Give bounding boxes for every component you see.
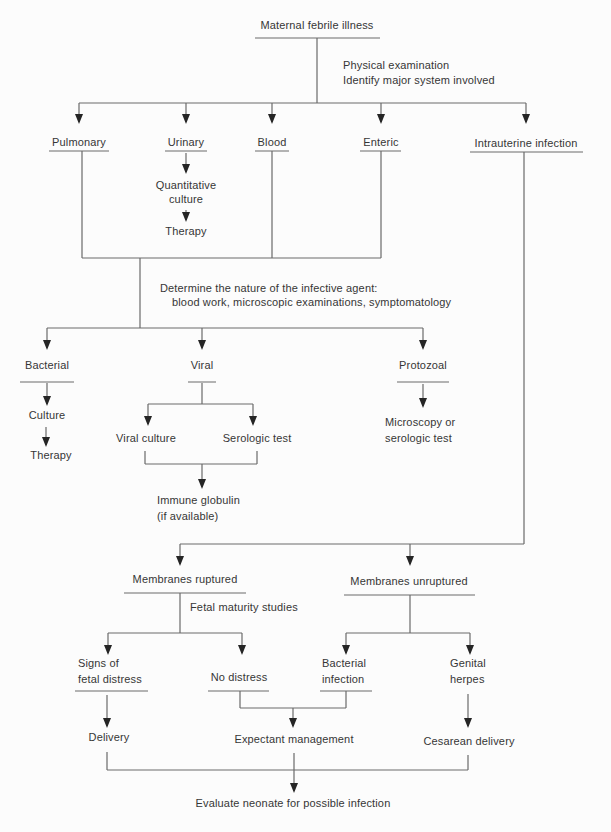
node-immune-globulin: Immune globulin (if available) (157, 492, 240, 524)
node-protozoal: Protozoal (399, 359, 447, 372)
flow-arrows (46, 103, 526, 791)
node-signs-of-fetal-distress: Signs of fetal distress (78, 655, 142, 687)
node-delivery: Delivery (89, 731, 130, 744)
node-microscopy-serologic: Microscopy or serologic test (385, 414, 455, 446)
node-viral-culture: Viral culture (116, 432, 176, 445)
node-quantitative-culture: Quantitative culture (156, 178, 217, 206)
node-viral: Viral (191, 359, 214, 372)
node-determine-agent-line2: blood work, microscopic examinations, sy… (172, 296, 451, 309)
annotation-physical-examination: Physical examination Identify major syst… (343, 58, 495, 88)
node-maternal-febrile-illness: Maternal febrile illness (260, 19, 373, 32)
flowchart-maternal-febrile-illness: Maternal febrile illness Physical examin… (0, 0, 611, 832)
node-intrauterine-infection: Intrauterine infection (475, 137, 578, 150)
node-evaluate-neonate: Evaluate neonate for possible infection (196, 797, 391, 810)
node-genital-herpes: Genital herpes (450, 655, 486, 687)
node-determine-agent-line1: Determine the nature of the infective ag… (160, 282, 378, 295)
node-enteric: Enteric (363, 136, 398, 149)
node-urinary: Urinary (168, 136, 205, 149)
node-fetal-maturity-studies: Fetal maturity studies (190, 601, 298, 614)
node-cesarean-delivery: Cesarean delivery (423, 735, 514, 748)
node-expectant-management: Expectant management (234, 733, 353, 746)
node-urinary-therapy: Therapy (165, 225, 206, 238)
node-pulmonary: Pulmonary (52, 136, 106, 149)
node-blood: Blood (258, 136, 287, 149)
node-bacterial: Bacterial (25, 359, 69, 372)
node-bacterial-culture: Culture (29, 409, 66, 422)
node-serologic-test: Serologic test (223, 432, 292, 445)
node-bacterial-infection: Bacterial infection (322, 655, 366, 687)
node-bacterial-therapy: Therapy (30, 449, 71, 462)
node-membranes-unruptured: Membranes unruptured (350, 575, 467, 588)
connector-lines (0, 0, 611, 832)
node-no-distress: No distress (211, 671, 268, 684)
node-membranes-ruptured: Membranes ruptured (133, 573, 238, 586)
